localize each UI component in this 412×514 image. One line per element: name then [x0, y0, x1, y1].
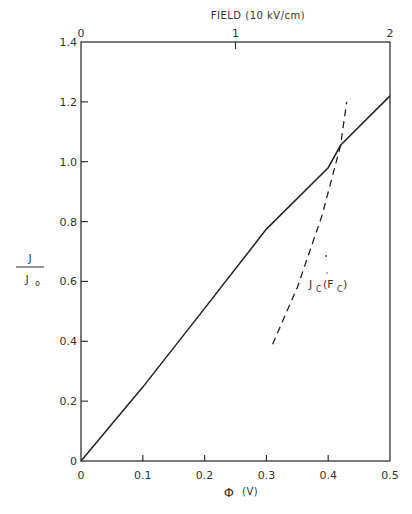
- y-tick-label: 0.8: [60, 216, 78, 229]
- y-tick-label: 0.4: [60, 335, 78, 348]
- y-tick-label: 1.0: [60, 156, 78, 169]
- x-tick-label: 0.2: [196, 469, 214, 482]
- y-tick-label: 0: [70, 455, 77, 468]
- x-tick-label: 0.4: [319, 469, 337, 482]
- svg-text:J: J: [308, 278, 312, 291]
- x-axis-title: Φ (V): [224, 485, 259, 500]
- svg-text:J: J: [24, 273, 28, 286]
- top-tick-label: 0: [78, 27, 85, 40]
- y-tick-label: 0.2: [60, 395, 78, 408]
- plot-frame: [81, 42, 390, 461]
- x-tick-label: 0.3: [258, 469, 276, 482]
- y-tick-label: 0.6: [60, 275, 78, 288]
- jc-fc-annotation: J C (F C ): [308, 255, 347, 294]
- x-tick-label: 0.1: [134, 469, 152, 482]
- svg-text:(F: (F: [323, 278, 334, 291]
- svg-text:J: J: [27, 252, 31, 265]
- svg-text:): ): [343, 278, 347, 291]
- x-tick-label: 0.5: [381, 469, 399, 482]
- svg-text:(V): (V): [242, 486, 258, 497]
- jc-fc-curve: [273, 102, 347, 344]
- y-tick-label: 1.4: [60, 36, 78, 49]
- y-axis-title: J J o: [16, 252, 44, 288]
- svg-text:C: C: [316, 285, 322, 294]
- top-tick-label: 2: [387, 27, 394, 40]
- top-axis-title: FIELD (10 kV/cm): [211, 10, 305, 21]
- x-tick-label: 0: [78, 469, 85, 482]
- chart: 00.10.20.30.40.500.20.40.60.81.01.21.401…: [0, 0, 412, 514]
- tick-labels: 00.10.20.30.40.500.20.40.60.81.01.21.401…: [60, 27, 399, 482]
- y-tick-label: 1.2: [60, 96, 78, 109]
- svg-text:Φ: Φ: [224, 485, 235, 500]
- axis-ticks: [81, 42, 328, 461]
- top-tick-label: 1: [232, 27, 239, 40]
- svg-text:o: o: [35, 279, 40, 288]
